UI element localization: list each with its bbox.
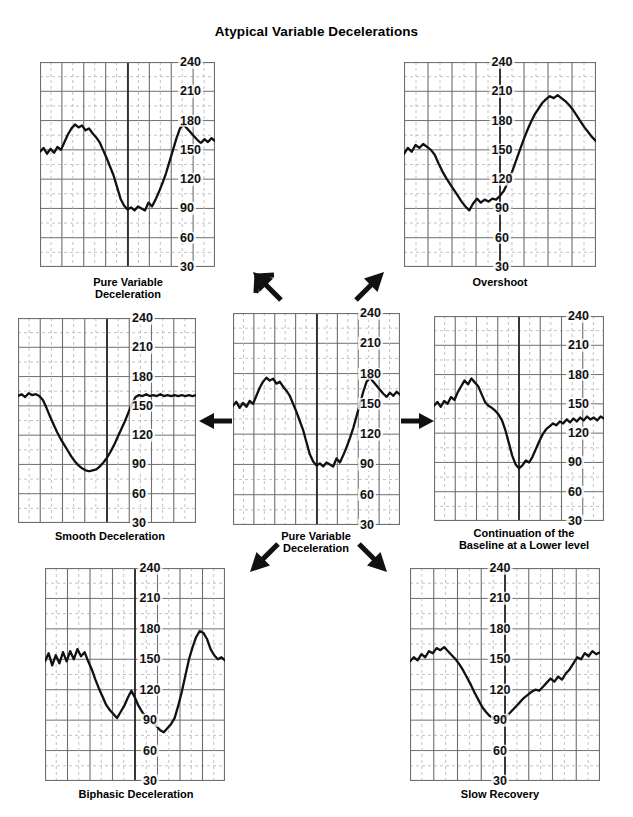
figure-atypical-variable-decelerations: Atypical Variable Decelerations 24021018… — [0, 0, 633, 817]
caption-continuation-lower-baseline: Continuation of the Baseline at a Lower … — [424, 528, 624, 551]
tracing-pure-variable — [233, 313, 400, 525]
panel-pure-variable — [233, 313, 400, 525]
panel-slow-recovery — [410, 568, 600, 781]
caption-smooth-deceleration: Smooth Deceleration — [10, 531, 210, 543]
caption-slow-recovery: Slow Recovery — [400, 789, 600, 801]
bottom-cutoff-strip — [0, 808, 633, 817]
tracing-biphasic-deceleration — [45, 568, 225, 781]
tracing-continuation-lower-baseline — [434, 316, 604, 521]
tracing-slow-recovery — [410, 568, 600, 781]
tracing-overshoot — [404, 62, 596, 267]
arrow-to-continuation-lower-baseline — [399, 409, 435, 433]
arrow-to-overshoot — [352, 262, 394, 304]
tracing-smooth-deceleration — [18, 318, 196, 523]
arrow-to-biphasic-deceleration — [240, 540, 282, 582]
panel-overshoot — [404, 62, 596, 267]
caption-overshoot: Overshoot — [400, 277, 600, 289]
panel-smooth-deceleration — [18, 318, 196, 523]
arrow-to-loss-of-shoulder — [243, 262, 285, 304]
arrow-to-slow-recovery — [355, 540, 397, 582]
panel-biphasic-deceleration — [45, 568, 225, 781]
caption-biphasic-deceleration: Biphasic Deceleration — [36, 789, 236, 801]
panel-continuation-lower-baseline — [434, 316, 604, 521]
panel-loss-of-shoulder — [40, 62, 215, 267]
caption-loss-of-shoulder: Pure Variable Deceleration — [28, 277, 228, 300]
arrow-to-smooth-deceleration — [198, 409, 234, 433]
figure-title: Atypical Variable Decelerations — [0, 24, 633, 39]
tracing-loss-of-shoulder — [40, 62, 215, 267]
